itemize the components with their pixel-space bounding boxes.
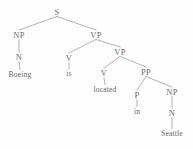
tree-node-located: located [93, 86, 116, 94]
tree-node-p: P [135, 91, 140, 100]
tree-edge [137, 77, 146, 91]
tree-edge [120, 57, 146, 68]
tree-node-np1: NP [13, 31, 24, 40]
tree-node-v1: V [66, 54, 72, 63]
tree-node-seattle: Seattle [161, 130, 183, 138]
tree-node-is: is [66, 70, 71, 78]
tree-edge [69, 40, 96, 54]
tree-node-in: in [134, 108, 140, 116]
tree-edge [104, 78, 105, 85]
tree-node-boeing: Boeing [9, 71, 32, 79]
tree-edge [104, 57, 120, 69]
tree-node-np2: NP [166, 88, 177, 97]
tree-node-n1: N [16, 53, 22, 62]
tree-edge [19, 17, 57, 31]
tree-edge [57, 17, 96, 31]
parse-tree-figure: SNPNBoeingVPVisVPVlocatedPPPinNPNSeattle [0, 0, 193, 149]
tree-node-v2: V [101, 69, 107, 78]
tree-node-n2: N [169, 109, 175, 118]
tree-node-vp1: VP [90, 31, 101, 40]
tree-node-pp: PP [141, 68, 151, 77]
tree-node-vp2: VP [114, 48, 125, 57]
tree-edge [19, 62, 20, 70]
tree-node-s: S [55, 8, 60, 17]
tree-edge [146, 77, 172, 88]
